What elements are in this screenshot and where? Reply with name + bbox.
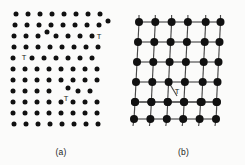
- lattice-atom: [59, 67, 64, 72]
- lattice-atom: [179, 115, 187, 123]
- lattice-atom: [90, 56, 95, 61]
- lattice-atom: [164, 98, 172, 106]
- lattice-atom: [83, 78, 88, 83]
- lattice-atom: [163, 115, 171, 123]
- lattice-atom: [72, 45, 77, 50]
- lattice-atom: [49, 23, 54, 28]
- lattice-atom: [97, 23, 102, 28]
- lattice-atom: [48, 45, 53, 50]
- lattice-atom: [148, 78, 156, 86]
- lattice-atom: [184, 18, 192, 26]
- lattice-atom: [78, 56, 83, 61]
- lattice-atom: [36, 45, 41, 50]
- lattice-atom: [11, 100, 16, 105]
- lattice-atom: [90, 34, 95, 39]
- lattice-atom: [36, 34, 41, 39]
- dislocation-symbol: T: [64, 94, 69, 103]
- lattice-atom: [11, 56, 16, 61]
- panel-b-defect-group: T: [175, 87, 180, 96]
- lattice-atom: [13, 23, 18, 28]
- lattice-atom: [133, 58, 141, 66]
- lattice-atom: [35, 78, 40, 83]
- lattice-atom: [24, 45, 29, 50]
- lattice-atom: [196, 115, 204, 123]
- lattice-atom: [14, 12, 19, 17]
- lattice-atom: [95, 67, 100, 72]
- panel-b-atom-group: [130, 18, 225, 123]
- lattice-atom: [47, 89, 52, 94]
- lattice-atom: [83, 100, 88, 105]
- lattice-atom: [62, 12, 67, 17]
- panel-b-bond-group: [133, 15, 221, 126]
- lattice-atom: [12, 122, 17, 127]
- panel-b-lattice-diagram: T: [122, 0, 245, 140]
- figure-root: TTT (a) T (b): [0, 0, 245, 165]
- lattice-atom: [180, 98, 188, 106]
- lattice-atom: [48, 122, 53, 127]
- lattice-atom: [45, 30, 50, 35]
- lattice-atom: [60, 122, 65, 127]
- lattice-atom: [38, 12, 43, 17]
- lattice-atom: [12, 34, 17, 39]
- lattice-atom: [181, 78, 189, 86]
- lattice-atom: [96, 122, 101, 127]
- lattice-atom: [23, 78, 28, 83]
- lattice-atom: [213, 98, 221, 106]
- lattice-atom: [96, 45, 101, 50]
- lattice-atom: [168, 18, 176, 26]
- lattice-atom: [42, 56, 47, 61]
- lattice-atom: [47, 78, 52, 83]
- lattice-atom: [135, 18, 143, 26]
- lattice-atom: [47, 100, 52, 105]
- lattice-atom: [106, 19, 111, 24]
- lattice-atom: [74, 12, 79, 17]
- lattice-atom: [150, 38, 158, 46]
- lattice-atom: [54, 56, 59, 61]
- lattice-atom: [166, 58, 174, 66]
- lattice-atom: [73, 23, 78, 28]
- lattice-atom: [61, 23, 66, 28]
- lattice-atom: [36, 122, 41, 127]
- lattice-atom: [50, 12, 55, 17]
- lattice-atom: [215, 58, 223, 66]
- lattice-atom: [130, 115, 138, 123]
- lattice-atom: [54, 34, 59, 39]
- lattice-atom: [214, 78, 222, 86]
- dislocation-symbol: T: [22, 53, 27, 62]
- lattice-atom: [216, 38, 224, 46]
- lattice-atom: [11, 111, 16, 116]
- lattice-atom: [86, 12, 91, 17]
- lattice-atom: [182, 58, 190, 66]
- lattice-atom: [151, 18, 159, 26]
- lattice-atom: [30, 56, 35, 61]
- lattice-atom: [201, 38, 209, 46]
- panel-a-caption: (a): [0, 147, 122, 157]
- lattice-atom: [35, 100, 40, 105]
- lattice-atom: [71, 67, 76, 72]
- lattice-atom: [183, 38, 191, 46]
- lattice-atom: [60, 45, 65, 50]
- lattice-atom: [212, 115, 220, 123]
- lattice-atom: [71, 100, 76, 105]
- panel-a: TTT (a): [0, 0, 122, 165]
- panel-b: T (b): [122, 0, 245, 165]
- lattice-atom: [147, 98, 155, 106]
- lattice-atom: [131, 98, 139, 106]
- lattice-atom: [59, 111, 64, 116]
- lattice-atom: [23, 67, 28, 72]
- lattice-atom: [146, 115, 154, 123]
- lattice-atom: [66, 34, 71, 39]
- lattice-atom: [149, 58, 157, 66]
- dislocation-symbol: T: [175, 87, 180, 96]
- lattice-atom: [83, 67, 88, 72]
- lattice-atom: [23, 89, 28, 94]
- lattice-atom: [35, 67, 40, 72]
- lattice-atom: [47, 67, 52, 72]
- lattice-atom: [197, 98, 205, 106]
- lattice-atom: [95, 100, 100, 105]
- lattice-atom: [24, 122, 29, 127]
- lattice-atom: [24, 34, 29, 39]
- lattice-atom: [167, 38, 175, 46]
- lattice-atom: [37, 23, 42, 28]
- lattice-atom: [66, 86, 71, 91]
